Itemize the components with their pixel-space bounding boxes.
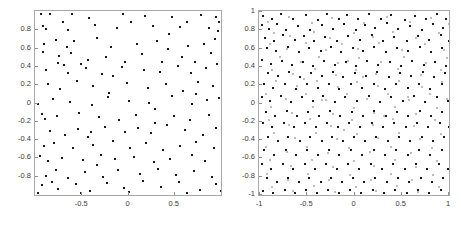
data-point — [341, 43, 343, 45]
y-tick-mark — [259, 11, 262, 12]
data-point — [407, 115, 409, 117]
data-point — [394, 159, 396, 161]
data-point — [273, 40, 275, 42]
data-point — [61, 157, 63, 159]
data-point — [356, 81, 358, 83]
data-point — [377, 137, 379, 139]
data-point — [330, 125, 332, 127]
data-point — [267, 21, 269, 23]
data-point — [53, 142, 55, 144]
data-point — [47, 83, 49, 85]
data-point — [87, 59, 89, 61]
data-point — [63, 64, 65, 66]
data-point — [445, 65, 447, 67]
data-point — [277, 75, 279, 77]
data-point — [320, 181, 322, 183]
data-point — [45, 175, 47, 177]
data-point — [195, 93, 197, 95]
data-point — [303, 35, 305, 37]
y-tick-mark — [35, 176, 38, 177]
data-point — [443, 136, 445, 138]
x-tick-mark — [306, 192, 307, 195]
data-point — [441, 83, 443, 85]
data-point — [263, 83, 265, 85]
x-axis-tick-label: 0.5 — [386, 200, 416, 208]
data-point — [43, 43, 45, 45]
data-point — [337, 62, 339, 64]
data-point — [431, 181, 433, 183]
data-point — [114, 158, 116, 160]
data-point — [426, 168, 428, 170]
data-point — [317, 87, 319, 89]
data-point — [205, 67, 207, 69]
data-point — [347, 163, 349, 165]
data-point — [362, 76, 364, 78]
data-point — [318, 56, 320, 58]
data-point — [284, 189, 286, 191]
data-point — [302, 61, 304, 63]
data-point — [329, 110, 331, 112]
data-point — [292, 18, 294, 20]
data-point — [213, 147, 215, 149]
data-point — [422, 71, 424, 73]
data-point — [64, 134, 66, 136]
data-point — [396, 185, 398, 187]
data-point — [386, 22, 388, 24]
data-point — [428, 39, 430, 41]
data-point — [305, 14, 307, 16]
x-axis-tick-label: 0.5 — [159, 200, 189, 208]
y-axis-tick-label: 0.8 — [245, 25, 255, 33]
data-point — [366, 98, 368, 100]
data-point — [339, 115, 341, 117]
data-point — [408, 99, 410, 101]
data-point — [417, 191, 419, 193]
data-point — [327, 152, 329, 154]
data-point — [434, 61, 436, 63]
data-point — [130, 21, 132, 23]
y-tick-mark — [35, 29, 38, 30]
data-point — [157, 168, 159, 170]
data-point — [67, 177, 69, 179]
data-point — [325, 163, 327, 165]
data-point — [88, 17, 90, 19]
data-point — [101, 73, 103, 75]
data-point — [208, 114, 210, 116]
data-point — [265, 146, 267, 148]
data-point — [307, 111, 309, 113]
data-point — [55, 169, 57, 171]
data-point — [381, 168, 383, 170]
data-point — [447, 168, 449, 170]
data-point — [390, 96, 392, 98]
data-point — [306, 149, 308, 151]
data-point — [327, 189, 329, 191]
data-point — [154, 122, 156, 124]
data-point — [71, 13, 73, 15]
data-point — [406, 192, 408, 194]
data-point — [447, 100, 449, 102]
data-point — [436, 96, 438, 98]
data-point — [342, 76, 344, 78]
data-point — [276, 23, 278, 25]
data-point — [178, 181, 180, 183]
data-point — [202, 134, 204, 136]
data-point — [41, 184, 43, 186]
data-point — [266, 177, 268, 179]
data-point — [306, 146, 308, 148]
data-point — [261, 24, 263, 26]
data-point — [332, 113, 334, 115]
data-point — [212, 85, 214, 87]
data-point — [290, 165, 292, 167]
data-point — [417, 189, 419, 191]
data-point — [397, 177, 399, 179]
data-point — [393, 122, 395, 124]
y-axis-tick-label: 1 — [251, 7, 255, 15]
data-point — [316, 192, 318, 194]
data-point — [440, 189, 442, 191]
data-point — [294, 137, 296, 139]
data-point — [128, 100, 130, 102]
data-point — [285, 29, 287, 31]
data-point — [271, 186, 273, 188]
data-point — [446, 98, 448, 100]
data-point — [421, 136, 423, 138]
data-point — [338, 18, 340, 20]
